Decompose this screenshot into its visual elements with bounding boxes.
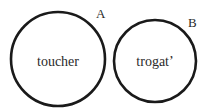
circle-a-label: A <box>96 7 105 20</box>
circle-b-label: B <box>188 16 197 29</box>
circle-b-text: trogat’ <box>136 55 173 69</box>
circle-a-text: toucher <box>37 55 79 69</box>
